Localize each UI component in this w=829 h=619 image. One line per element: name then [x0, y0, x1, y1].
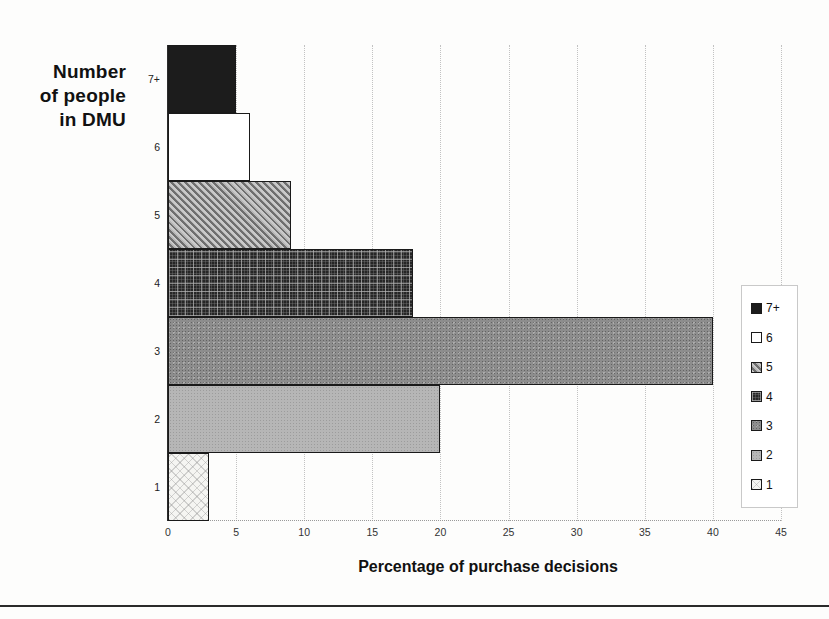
x-axis-ticks: 0 5 10 15 20 25 30 35 40 45 [168, 526, 781, 540]
legend-item-4: 4 [751, 390, 797, 404]
x-tick-5: 5 [233, 526, 239, 538]
gridline-35 [645, 45, 646, 521]
legend-label: 7+ [766, 301, 780, 315]
legend: 7+ 6 5 4 3 2 1 [741, 285, 798, 508]
bar-3 [168, 317, 713, 385]
x-tick-30: 30 [571, 526, 583, 538]
bar-7plus [168, 45, 236, 113]
y-axis-label-5: 5 [118, 181, 160, 249]
scanned-chart-page: Number of people in DMU 7+ 6 5 4 3 2 1 0… [0, 0, 829, 619]
bar-6 [168, 113, 250, 181]
x-tick-0: 0 [165, 526, 171, 538]
legend-swatch-gray-halftone-icon [751, 420, 762, 431]
legend-item-7plus: 7+ [751, 301, 797, 315]
x-tick-10: 10 [298, 526, 310, 538]
legend-label: 5 [766, 360, 773, 374]
x-tick-35: 35 [639, 526, 651, 538]
legend-item-1: 1 [751, 478, 797, 492]
page-divider-rule [0, 605, 829, 607]
gridline-40 [713, 45, 714, 521]
y-axis-label-4: 4 [118, 249, 160, 317]
y-axis-label-7plus: 7+ [118, 45, 160, 113]
legend-item-3: 3 [751, 419, 797, 433]
legend-label: 2 [766, 448, 773, 462]
y-axis-label-6: 6 [118, 113, 160, 181]
legend-item-2: 2 [751, 448, 797, 462]
x-tick-25: 25 [503, 526, 515, 538]
chart-title-line-3: in DMU [18, 108, 126, 132]
legend-item-6: 6 [751, 331, 797, 345]
legend-swatch-black-icon [751, 303, 762, 314]
x-axis-title: Percentage of purchase decisions [258, 558, 718, 576]
legend-item-5: 5 [751, 360, 797, 374]
legend-label: 1 [766, 478, 773, 492]
y-axis-label-3: 3 [118, 317, 160, 385]
legend-swatch-white-icon [751, 332, 762, 343]
bar-1 [168, 453, 209, 521]
chart-title-line-1: Number [18, 60, 126, 84]
legend-swatch-light-gray-icon [751, 450, 762, 461]
legend-label: 6 [766, 331, 773, 345]
x-tick-45: 45 [775, 526, 787, 538]
gridline-25 [509, 45, 510, 521]
chart-title: Number of people in DMU [18, 60, 126, 132]
x-tick-20: 20 [435, 526, 447, 538]
legend-swatch-dark-plaid-icon [751, 391, 762, 402]
plot-area [168, 45, 781, 521]
legend-label: 4 [766, 390, 773, 404]
bar-2 [168, 385, 440, 453]
legend-label: 3 [766, 419, 773, 433]
legend-swatch-diagonal-hatch-icon [751, 362, 762, 373]
legend-swatch-light-dots-icon [751, 479, 762, 490]
x-tick-40: 40 [707, 526, 719, 538]
y-axis-line [167, 45, 168, 521]
y-axis-label-1: 1 [118, 453, 160, 521]
bar-5 [168, 181, 291, 249]
x-tick-15: 15 [366, 526, 378, 538]
bar-4 [168, 249, 413, 317]
gridline-30 [577, 45, 578, 521]
y-axis-label-2: 2 [118, 385, 160, 453]
x-axis-baseline [168, 520, 781, 521]
gridline-20 [440, 45, 441, 521]
chart-title-line-2: of people [18, 84, 126, 108]
